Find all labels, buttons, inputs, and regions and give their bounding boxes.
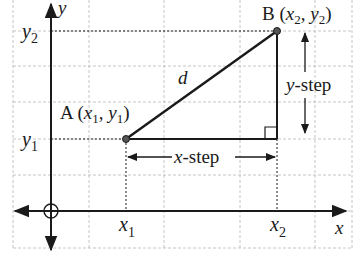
segment-d — [126, 31, 277, 139]
tick-x2: x2 — [269, 213, 286, 240]
right-triangle — [126, 31, 277, 139]
segment-d-label: d — [178, 67, 188, 88]
axes — [15, 4, 346, 250]
y-step-label: y-step — [284, 74, 331, 95]
y-axis-label: y — [56, 0, 67, 18]
tick-y1: y1 — [20, 128, 38, 154]
tick-y2: y2 — [20, 20, 38, 46]
point-a-label: A (x1, y1) — [60, 102, 129, 126]
point-b — [274, 28, 281, 35]
tick-x1: x1 — [118, 213, 135, 240]
x-step-label: x-step — [173, 146, 219, 167]
distance-diagram: y x y2 y1 x1 x2 A (x1, y1) B (x2, y2) d … — [0, 0, 357, 258]
point-b-label: B (x2, y2) — [262, 3, 331, 27]
point-a — [123, 136, 130, 143]
x-axis-label: x — [334, 217, 344, 238]
right-angle-icon — [265, 127, 277, 139]
